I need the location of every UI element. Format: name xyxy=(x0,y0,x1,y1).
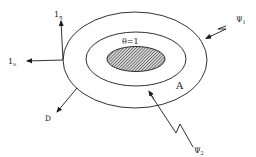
psi1-ray-arrow xyxy=(206,36,212,39)
inner-hatched-region xyxy=(107,47,165,72)
flux-vector-label: D xyxy=(45,114,51,123)
normal-vector-label: 1η xyxy=(54,10,62,21)
psi2-label: Ψ2 xyxy=(194,146,204,156)
psi2-ray-arrow xyxy=(149,91,154,100)
diagram-canvas: θ=1 A 1η 1ν D Ψ1 Ψ2 xyxy=(0,0,256,157)
normal-vector-arrow xyxy=(61,21,63,60)
tangent-vector-arrow xyxy=(27,60,63,61)
psi2-ray xyxy=(151,95,193,147)
psi1-label: Ψ1 xyxy=(236,15,246,25)
theta-label: θ=1 xyxy=(122,37,139,46)
region-a-label: A xyxy=(175,80,184,91)
tangent-vector-label: 1ν xyxy=(8,57,17,67)
flux-vector-arrow xyxy=(57,88,77,112)
